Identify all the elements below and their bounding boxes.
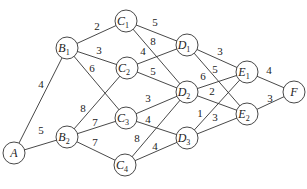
edge-weight-label: 4 [266,64,272,76]
edge-weight-label: 7 [92,136,98,148]
node-D2: D2 [176,81,198,103]
node-C1: C1 [115,10,137,32]
edge-weight-label: 5 [152,16,158,28]
node-E1: E1 [236,61,258,83]
graph-canvas: 452368775845348435621343AB1B2C1C2C3C4D1D… [0,0,307,189]
node-C3: C3 [115,107,137,129]
edge-weight-label: 8 [80,102,86,114]
edge-weight-label: 8 [134,132,140,144]
node-A: A [3,142,25,164]
edge-weight-label: 5 [38,124,44,136]
edge-weight-label: 4 [38,78,44,90]
edge-weight-label: 3 [96,44,102,56]
edge-weight-label: 4 [140,45,146,57]
node-B2: B2 [56,126,78,148]
edge-weight-label: 2 [209,85,215,97]
node-C4: C4 [114,154,136,176]
edge-weight-label: 8 [150,35,156,47]
edge-weight-label: 4 [145,113,151,125]
node-label: F [289,85,298,99]
node-B1: B1 [56,37,78,59]
node-label: A [9,146,18,160]
edge-weight-label: 1 [197,107,203,119]
edge-weight-label: 3 [267,92,273,104]
edge-weight-label: 6 [89,62,95,74]
edge-weight-label: 5 [212,63,218,75]
edge-weight-label: 3 [217,45,223,57]
edge-weight-label: 3 [212,111,218,123]
edge-weight-label: 2 [94,20,100,32]
edge-weight-label: 5 [150,65,156,77]
edge-weight-label: 3 [145,92,151,104]
node-C2: C2 [116,57,138,79]
node-D3: D3 [176,127,198,149]
graph-diagram: 452368775845348435621343AB1B2C1C2C3C4D1D… [0,0,307,189]
node-F: F [283,81,305,103]
node-E2: E2 [236,103,258,125]
edge-B1-C3 [67,48,126,118]
edge-C4-D2 [125,92,187,165]
node-D1: D1 [176,34,198,56]
edge-weight-label: 4 [152,140,158,152]
edge-weight-label: 7 [92,116,98,128]
edge-weight-label: 6 [200,70,206,82]
